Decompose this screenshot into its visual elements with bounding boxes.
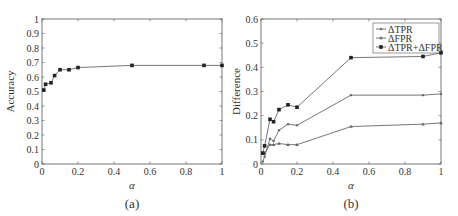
chart-b-legend-marker (380, 28, 382, 30)
chart-b-data-point (286, 103, 290, 107)
chart-a-x-tick-label: 0.6 (144, 166, 157, 177)
chart-a-x-tick-label: 0.8 (180, 166, 193, 177)
chart-b-legend-label: ΔTPR+ΔFPR (388, 42, 443, 53)
chart-b-x-tick-label: 0.4 (327, 166, 340, 177)
chart-b-data-point (287, 123, 289, 125)
chart-b-y-tick-label: 0.4 (246, 62, 259, 73)
chart-b-data-point (421, 55, 425, 59)
chart-b-data-point (349, 56, 353, 60)
chart-b-x-tick-label: 0 (259, 166, 264, 177)
chart-a-plot-frame (42, 19, 222, 164)
chart-b-data-point (272, 120, 276, 124)
chart-a-data-point (44, 82, 48, 86)
chart-a-y-tick-label: 0.4 (27, 101, 40, 112)
chart-a-data-point (130, 64, 134, 68)
chart-b-data-point (263, 144, 267, 148)
chart-b-data-point (262, 160, 264, 162)
chart-a-x-tick-label: 1 (220, 166, 225, 177)
chart-b-series-line-2 (263, 53, 441, 153)
chart-b-difference: 00.20.40.60.8100.10.20.30.40.50.6αDiffer… (230, 14, 444, 212)
chart-b-data-point (440, 93, 442, 95)
chart-a-y-tick-label: 0.9 (27, 28, 40, 39)
chart-a-data-point (67, 68, 71, 72)
chart-b-data-point (278, 129, 280, 131)
chart-b-data-point (439, 121, 443, 124)
chart-a-y-tick-label: 0.8 (27, 43, 40, 54)
chart-a-x-tick-label: 0 (40, 166, 45, 177)
chart-b-x-tick-label: 1 (439, 166, 444, 177)
chart-b-data-point (277, 141, 281, 144)
chart-a-y-tick-label: 1 (34, 14, 39, 25)
chart-b-y-tick-label: 0.3 (246, 86, 259, 97)
chart-a-data-point (220, 64, 224, 68)
chart-b-x-tick-label: 0.6 (363, 166, 376, 177)
chart-b-y-tick-label: 0.6 (246, 14, 259, 25)
chart-a-caption: (a) (125, 196, 139, 211)
chart-b-x-tick-label: 0.8 (399, 166, 412, 177)
chart-b-data-point (272, 140, 274, 142)
chart-a-accuracy: 00.20.40.60.8100.10.20.30.40.50.60.70.80… (4, 14, 225, 212)
chart-b-x-tick-label: 0.2 (291, 166, 304, 177)
chart-a-data-point (49, 81, 53, 85)
chart-a-y-tick-label: 0.1 (27, 144, 40, 155)
chart-a-x-tick-label: 0.4 (108, 166, 121, 177)
chart-a-y-tick-label: 0.7 (27, 57, 40, 68)
chart-a-y-tick-label: 0.2 (27, 130, 40, 141)
chart-b-y-tick-label: 0.1 (246, 134, 259, 145)
chart-b-data-point (277, 108, 281, 112)
chart-b-data-point (268, 117, 272, 121)
chart-b-caption: (b) (343, 196, 358, 211)
chart-a-data-point (58, 68, 62, 72)
chart-a-x-axis-title: α (129, 179, 135, 191)
chart-a-x-tick-label: 0.2 (72, 166, 85, 177)
chart-b-data-point (350, 94, 352, 96)
chart-a-data-point (76, 66, 80, 70)
chart-b-data-point (261, 151, 265, 155)
figure: 00.20.40.60.8100.10.20.30.40.50.60.70.80… (0, 0, 458, 216)
chart-a-y-tick-label: 0.5 (27, 86, 40, 97)
chart-b-y-tick-label: 0.5 (246, 38, 259, 49)
chart-a-data-point (202, 64, 206, 68)
chart-a-y-tick-label: 0 (34, 159, 39, 170)
chart-b-y-tick-label: 0 (253, 159, 258, 170)
chart-a-y-axis-title: Accuracy (4, 70, 16, 113)
chart-b-legend-marker (379, 45, 383, 49)
chart-a-data-point (53, 74, 57, 78)
chart-b-x-axis-title: α (348, 179, 354, 191)
chart-a-data-point (42, 88, 46, 92)
chart-a-y-tick-label: 0.6 (27, 72, 40, 83)
chart-b-data-point (296, 124, 298, 126)
chart-b-data-point (422, 94, 424, 96)
chart-b-data-point (263, 156, 265, 158)
chart-b-data-point (269, 137, 271, 139)
chart-a-y-tick-label: 0.3 (27, 115, 40, 126)
chart-b-y-axis-title: Difference (230, 68, 242, 115)
chart-b-y-tick-label: 0.2 (246, 110, 259, 121)
chart-b-data-point (295, 105, 299, 109)
